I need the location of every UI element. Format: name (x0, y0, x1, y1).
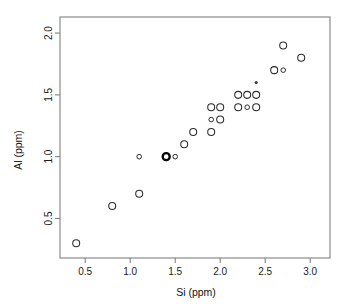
y-tick-label: 1.0 (43, 149, 54, 163)
data-point (109, 203, 116, 210)
data-point (163, 153, 170, 160)
data-point (245, 105, 250, 110)
y-axis-ticks (55, 33, 60, 218)
x-axis-ticks (85, 258, 310, 263)
scatter-plot-figure: 0.51.01.52.02.53.0 0.51.01.52.0 Si (ppm)… (0, 0, 348, 307)
x-axis-tick-labels: 0.51.01.52.02.53.0 (78, 266, 317, 277)
data-point (190, 128, 197, 135)
data-point (280, 42, 287, 49)
data-point (253, 91, 260, 98)
plot-canvas: 0.51.01.52.02.53.0 0.51.01.52.0 Si (ppm)… (0, 0, 348, 307)
y-axis-title: Al (ppm) (12, 130, 24, 170)
data-point (181, 141, 188, 148)
x-tick-label: 2.5 (258, 266, 272, 277)
data-point (208, 128, 215, 135)
x-tick-label: 1.0 (123, 266, 137, 277)
x-tick-label: 0.5 (78, 266, 92, 277)
data-point (253, 104, 260, 111)
data-point (255, 81, 258, 84)
data-point (208, 104, 215, 111)
x-tick-label: 2.0 (213, 266, 227, 277)
data-point (209, 117, 214, 122)
data-point (271, 67, 278, 74)
data-point (281, 68, 286, 73)
data-point (173, 154, 178, 159)
y-tick-label: 0.5 (44, 211, 55, 225)
data-point (235, 104, 242, 111)
data-point (73, 240, 80, 247)
data-point (244, 91, 251, 98)
data-point (217, 116, 224, 123)
data-point (136, 190, 143, 197)
y-axis-tick-labels: 0.51.01.52.0 (43, 26, 54, 226)
panel-border (60, 17, 330, 258)
y-tick-label: 2.0 (44, 26, 55, 40)
x-axis-title: Si (ppm) (176, 286, 216, 298)
data-point (235, 91, 242, 98)
data-point (298, 54, 305, 61)
data-point-group (73, 42, 305, 247)
data-point (217, 104, 224, 111)
x-tick-label: 3.0 (303, 266, 317, 277)
x-tick-label: 1.5 (168, 266, 182, 277)
data-point (137, 154, 142, 159)
y-tick-label: 1.5 (44, 87, 55, 101)
